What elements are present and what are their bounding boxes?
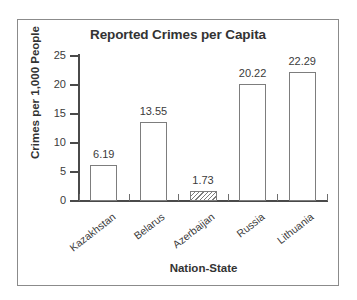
x-axis-title: Nation-State (79, 262, 328, 274)
y-tick-mark (70, 200, 79, 202)
bar-belarus[interactable] (140, 122, 167, 201)
y-tick-mark (70, 113, 79, 115)
y-tick-mark (70, 142, 79, 144)
bar-value-label: 20.22 (223, 68, 283, 79)
chart-title: Reported Crimes per Capita (17, 27, 339, 42)
bar-lithuania[interactable] (289, 72, 316, 201)
y-tick-label: 10 (26, 137, 66, 148)
y-tick-label: 15 (26, 108, 66, 119)
y-tick-label: 5 (26, 166, 66, 177)
y-tick-label: 20 (26, 79, 66, 90)
bar-value-label: 6.19 (74, 149, 134, 160)
bar-russia[interactable] (239, 84, 266, 201)
bar-value-label: 13.55 (123, 106, 183, 117)
bar-value-label: 1.73 (173, 175, 233, 186)
y-tick-mark (70, 171, 79, 173)
y-tick-label: 0 (26, 195, 66, 206)
x-tick-mark (327, 194, 328, 201)
y-tick-mark (70, 84, 79, 86)
y-tick-mark (70, 55, 79, 57)
bar-azerbaijan[interactable] (190, 191, 217, 201)
bar-kazakhstan[interactable] (90, 165, 117, 201)
y-tick-label: 25 (26, 50, 66, 61)
bar-value-label: 22.29 (272, 56, 332, 67)
chart-figure: Reported Crimes per Capita Crimes per 1,… (0, 0, 357, 300)
